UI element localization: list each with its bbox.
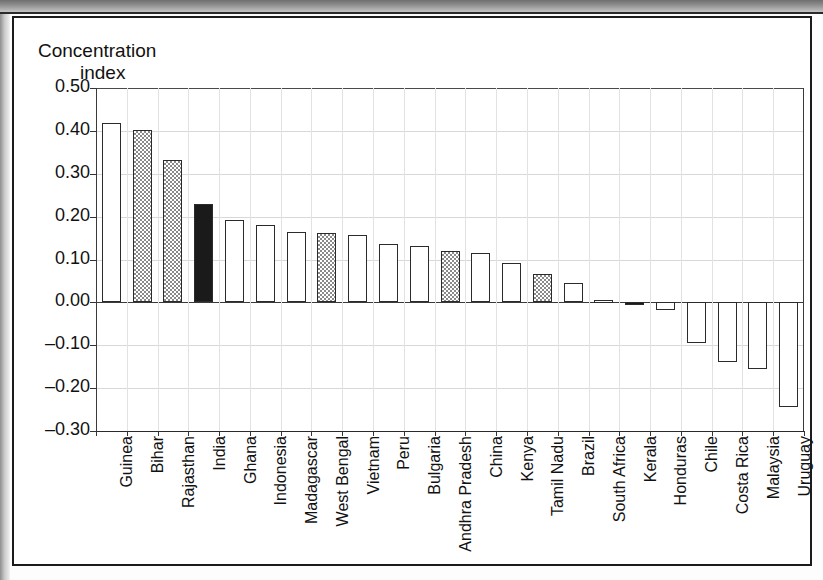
x-axis-tick (373, 431, 374, 436)
x-axis-tick (250, 431, 251, 436)
bar-south-africa (594, 300, 613, 303)
x-axis-tick (127, 431, 128, 436)
gridline-x (188, 88, 189, 431)
x-axis-tick (96, 431, 97, 436)
plot-edge (96, 88, 97, 431)
x-axis-tick (188, 431, 189, 436)
x-tick-label: West Bengal (334, 436, 352, 526)
bar-brazil (564, 283, 583, 302)
x-tick-label: Kerala (642, 436, 660, 482)
x-axis-tick (158, 431, 159, 436)
bar-peru (379, 244, 398, 303)
x-tick-label: Kenya (519, 436, 537, 481)
x-axis-tick (342, 431, 343, 436)
bar-costa-rica (718, 302, 737, 362)
bar-west-bengal (317, 233, 336, 302)
y-axis-title-line1: Concentration (38, 40, 156, 61)
gridline-x (650, 88, 651, 431)
x-tick-label: India (211, 436, 229, 471)
x-tick-label: Bulgaria (426, 436, 444, 495)
bar-chile (687, 302, 706, 343)
x-tick-label: South Africa (611, 436, 629, 522)
x-axis-tick (558, 431, 559, 436)
y-axis-tick-marks (14, 88, 104, 431)
x-axis-tick-labels: GuineaBiharRajasthanIndiaGhanaIndonesiaM… (96, 436, 806, 580)
x-axis-tick (773, 431, 774, 436)
x-tick-label: Bihar (149, 436, 167, 473)
bar-kenya (502, 263, 521, 302)
gridline-x (281, 88, 282, 431)
gridline-x (681, 88, 682, 431)
x-axis-tick (712, 431, 713, 436)
x-axis-tick (804, 431, 805, 436)
bar-india (194, 204, 213, 303)
gridline-x (527, 88, 528, 431)
bar-bulgaria (410, 246, 429, 302)
bar-china (471, 253, 490, 302)
x-axis-tick (219, 431, 220, 436)
gridline-x (342, 88, 343, 431)
bar-malaysia (748, 302, 767, 368)
page-gutter-shadow (0, 14, 10, 580)
x-tick-label: Rajasthan (180, 436, 198, 508)
gridline-x (742, 88, 743, 431)
x-tick-label: Costa Rica (734, 436, 752, 514)
x-axis-tick (681, 431, 682, 436)
gridline-x (619, 88, 620, 431)
gridline-x (465, 88, 466, 431)
gridline-y (96, 345, 804, 346)
gridline-y (96, 174, 804, 175)
bar-rajasthan (163, 160, 182, 302)
x-axis-tick (589, 431, 590, 436)
gridline-x (404, 88, 405, 431)
plot-edge (803, 88, 804, 431)
bar-madagascar (287, 232, 306, 302)
bar-indonesia (256, 225, 275, 302)
x-axis-tick (404, 431, 405, 436)
x-tick-label: Peru (395, 436, 413, 470)
x-axis-tick (465, 431, 466, 436)
gridline-x (435, 88, 436, 431)
gridline-x (373, 88, 374, 431)
bar-tamil-nadu (533, 274, 552, 302)
header-rule (0, 12, 823, 14)
x-tick-label: Indonesia (272, 436, 290, 505)
gridline-x (250, 88, 251, 431)
page-header-band (0, 0, 823, 14)
x-tick-label: Uruguay (796, 436, 814, 496)
x-tick-label: Ghana (242, 436, 260, 484)
gridline-x (558, 88, 559, 431)
bar-kerala (625, 302, 644, 305)
bar-andhra-pradesh (441, 251, 460, 302)
gridline-y (96, 388, 804, 389)
x-axis-tick (311, 431, 312, 436)
x-axis-tick (650, 431, 651, 436)
gridline-x (158, 88, 159, 431)
bar-honduras (656, 302, 675, 309)
gridline-x (219, 88, 220, 431)
x-tick-label: Madagascar (303, 436, 321, 524)
x-tick-label: Honduras (672, 436, 690, 505)
x-tick-label: Chile (703, 436, 721, 472)
gridline-x (773, 88, 774, 431)
gridline-x (311, 88, 312, 431)
gridline-x (496, 88, 497, 431)
plot-area (96, 88, 804, 431)
bar-ghana (225, 220, 244, 302)
gridline-y (96, 131, 804, 132)
figure-frame: Concentration index 0.500.400.300.200.10… (12, 16, 812, 566)
scanned-page: Concentration index 0.500.400.300.200.10… (0, 0, 823, 580)
x-axis-tick (619, 431, 620, 436)
gridline-y (96, 431, 804, 432)
gridline-x (589, 88, 590, 431)
gridline-y (96, 88, 804, 89)
x-axis-tick (435, 431, 436, 436)
x-tick-label: Andhra Pradesh (457, 436, 475, 552)
x-axis-tick (527, 431, 528, 436)
bar-uruguay (779, 302, 798, 407)
x-tick-label: China (488, 436, 506, 478)
bar-guinea (102, 123, 121, 302)
x-tick-label: Brazil (580, 436, 598, 476)
x-axis-tick (496, 431, 497, 436)
bar-bihar (133, 130, 152, 302)
